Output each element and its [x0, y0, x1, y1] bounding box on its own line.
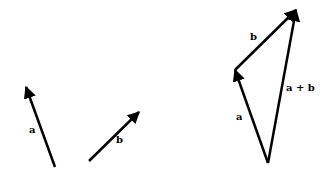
vector-b-label: b [116, 134, 123, 145]
right-triangle-sum: a b a + b [235, 10, 315, 163]
vector-b-arrow [89, 112, 139, 161]
vector-addition-diagram: a b a b a + b [0, 0, 325, 174]
vector-a-label: a [29, 124, 36, 135]
triangle-vector-a-label: a [236, 111, 243, 122]
left-vectors: a b [26, 87, 139, 167]
resultant-vector-label: a + b [286, 82, 315, 93]
triangle-vector-b-label: b [250, 31, 257, 42]
